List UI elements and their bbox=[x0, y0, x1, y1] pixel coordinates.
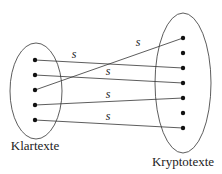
ciphertext-set-element bbox=[181, 126, 185, 130]
plaintext-set-element bbox=[33, 58, 37, 62]
ciphertext-set-element bbox=[181, 111, 185, 115]
plaintext-set-element bbox=[33, 103, 37, 107]
ciphertext-set-label: Kryptotexte bbox=[152, 154, 214, 169]
edge-label: s bbox=[106, 109, 111, 123]
plaintext-set-element bbox=[33, 118, 37, 122]
plaintext-set-element bbox=[33, 73, 37, 77]
edge-label: s bbox=[72, 47, 77, 61]
edge-label: s bbox=[106, 87, 111, 101]
ciphertext-set-element bbox=[181, 51, 185, 55]
ciphertext-set-element bbox=[181, 81, 185, 85]
edge-label: s bbox=[136, 35, 141, 49]
mapping-diagram: KlartexteKryptotextesssss bbox=[0, 0, 222, 174]
ciphertext-set-element bbox=[181, 96, 185, 100]
edge-label: s bbox=[106, 64, 111, 78]
plaintext-set-label: Klartexte bbox=[11, 138, 60, 153]
plaintext-set-element bbox=[33, 88, 37, 92]
ciphertext-set-element bbox=[181, 66, 185, 70]
ciphertext-set-element bbox=[181, 36, 185, 40]
